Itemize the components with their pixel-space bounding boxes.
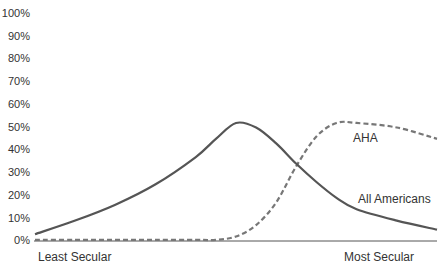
x-label-least-secular: Least Secular — [38, 250, 111, 264]
x-label-most-secular: Most Secular — [344, 250, 414, 264]
aha-annotation: AHA — [353, 131, 378, 145]
all-americans-annotation: All Americans — [358, 192, 431, 206]
